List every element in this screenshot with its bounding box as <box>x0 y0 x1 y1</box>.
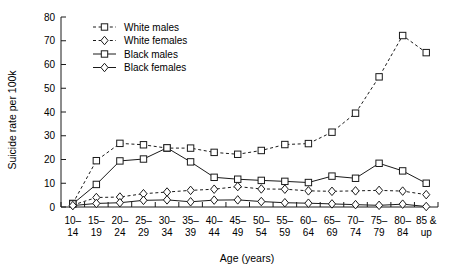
legend-label: White females <box>124 35 187 46</box>
x-tick-label: 59 <box>279 227 291 238</box>
x-axis-title-text: Age (years) <box>220 252 274 264</box>
x-tick-label: 20– <box>112 215 129 226</box>
data-point-marker <box>305 199 312 208</box>
data-point-marker <box>376 74 382 80</box>
data-point-marker <box>399 168 405 174</box>
legend-item-white-females: White females <box>93 35 187 46</box>
y-tick-label: 0 <box>49 202 55 213</box>
axis-frame <box>61 17 438 207</box>
data-point-marker <box>235 151 241 157</box>
data-point-marker <box>101 51 107 57</box>
data-point-marker <box>164 145 170 151</box>
data-point-marker <box>281 185 288 194</box>
data-point-marker <box>328 187 335 196</box>
data-point-marker <box>329 129 335 135</box>
data-point-marker <box>399 187 406 196</box>
data-point-marker <box>376 160 382 166</box>
y-axis-title: Suicide rate per 100k <box>6 70 18 170</box>
data-point-marker <box>423 190 430 199</box>
y-tick-label: 60 <box>44 59 56 70</box>
x-tick-label: 75– <box>371 215 388 226</box>
x-tick-label: 25– <box>135 215 152 226</box>
x-tick-label: 74 <box>350 227 362 238</box>
x-tick-label: up <box>421 227 433 238</box>
data-point-marker <box>282 141 288 147</box>
x-tick-label: 24 <box>114 227 126 238</box>
series-line <box>73 36 426 204</box>
data-point-marker <box>116 198 123 207</box>
data-point-marker <box>329 173 335 179</box>
suicide-rate-line-chart: Suicide rate per 100k 01020304050607080 … <box>0 0 453 276</box>
data-point-marker <box>140 142 146 148</box>
y-axis-ticks: 01020304050607080 <box>44 12 66 213</box>
y-tick-label: 40 <box>44 107 56 118</box>
data-point-marker <box>117 158 123 164</box>
x-tick-label: 15– <box>88 215 105 226</box>
legend-item-black-males: Black males <box>93 49 178 60</box>
data-point-marker <box>101 63 108 72</box>
data-point-marker <box>423 202 430 211</box>
data-point-marker <box>235 176 241 182</box>
x-tick-label: 29 <box>138 227 150 238</box>
data-point-marker <box>352 200 359 209</box>
series-line <box>73 148 426 204</box>
x-tick-label: 60– <box>300 215 317 226</box>
x-tick-label: 65– <box>324 215 341 226</box>
data-point-marker <box>352 187 359 196</box>
data-point-marker <box>258 147 264 153</box>
x-tick-label: 40– <box>206 215 223 226</box>
x-tick-label: 49 <box>232 227 244 238</box>
data-point-marker <box>281 198 288 207</box>
legend-label: Black females <box>124 62 186 73</box>
legend-item-white-males: White males <box>93 22 179 33</box>
data-point-marker <box>282 178 288 184</box>
data-point-marker <box>93 181 99 187</box>
data-point-marker <box>258 185 265 194</box>
legend-label: Black males <box>124 49 178 60</box>
x-tick-label: 50– <box>253 215 270 226</box>
legend-label: White males <box>124 22 179 33</box>
x-tick-label: 14 <box>67 227 79 238</box>
data-point-marker <box>352 175 358 181</box>
data-point-marker <box>101 24 107 30</box>
x-tick-label: 55– <box>277 215 294 226</box>
data-point-marker <box>352 110 358 116</box>
x-tick-label: 39 <box>185 227 197 238</box>
data-point-marker <box>211 185 218 194</box>
data-point-marker <box>117 140 123 146</box>
data-point-marker <box>140 196 147 205</box>
chart-legend: White malesWhite femalesBlack malesBlack… <box>93 22 187 73</box>
data-point-marker <box>234 182 241 191</box>
axis-lines <box>61 17 438 207</box>
data-point-marker <box>305 140 311 146</box>
y-axis-title-text: Suicide rate per 100k <box>6 70 18 170</box>
data-point-marker <box>140 156 146 162</box>
data-point-marker <box>423 180 429 186</box>
series-black-males <box>70 145 430 207</box>
data-point-marker <box>234 196 241 205</box>
x-tick-label: 69 <box>326 227 338 238</box>
x-tick-label: 79 <box>374 227 386 238</box>
x-tick-label: 10– <box>64 215 81 226</box>
data-point-marker <box>93 199 100 208</box>
y-tick-label: 50 <box>44 83 56 94</box>
data-point-marker <box>376 186 383 195</box>
x-tick-label: 30– <box>159 215 176 226</box>
data-point-marker <box>163 196 170 205</box>
x-tick-label: 34 <box>161 227 173 238</box>
y-tick-label: 70 <box>44 35 56 46</box>
data-point-marker <box>101 36 108 45</box>
data-point-marker <box>211 196 218 205</box>
y-tick-label: 20 <box>44 154 56 165</box>
y-tick-label: 80 <box>44 12 56 23</box>
x-tick-label: 54 <box>256 227 268 238</box>
x-tick-label: 70– <box>347 215 364 226</box>
data-point-marker <box>258 177 264 183</box>
y-tick-label: 10 <box>44 178 56 189</box>
x-tick-label: 19 <box>91 227 103 238</box>
data-point-marker <box>305 187 312 196</box>
data-point-marker <box>93 157 99 163</box>
data-point-marker <box>211 174 217 180</box>
data-point-marker <box>305 179 311 185</box>
x-tick-label: 80– <box>394 215 411 226</box>
